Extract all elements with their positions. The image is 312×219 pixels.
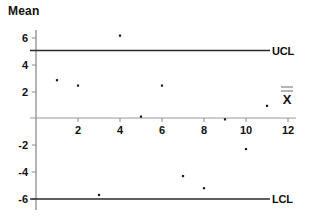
x-tick-label-10: 10 — [240, 124, 252, 136]
control-chart: Mean 6 4 2 -2 -4 -6 — [0, 0, 312, 219]
data-point — [203, 187, 205, 189]
data-points — [56, 35, 268, 197]
lcl-label: LCL — [272, 193, 293, 205]
data-point — [56, 79, 58, 81]
y-tick-label-neg2: -2 — [18, 139, 28, 151]
center-label-text: X — [283, 92, 292, 107]
center-line-label: X — [281, 87, 293, 107]
data-point — [245, 148, 247, 150]
chart-plot-area: 6 4 2 -2 -4 -6 2 4 6 8 10 12 UCL LCL — [0, 0, 312, 219]
x-tick-label-6: 6 — [159, 124, 165, 136]
y-tick-label-neg4: -4 — [18, 166, 29, 178]
ucl-label: UCL — [272, 45, 294, 57]
x-tick-label-12: 12 — [282, 124, 294, 136]
data-point — [266, 105, 268, 107]
data-point — [161, 85, 163, 87]
x-axis-ticks — [78, 118, 288, 122]
y-tick-label-6: 6 — [22, 32, 28, 44]
x-tick-label-2: 2 — [75, 124, 81, 136]
data-point — [182, 175, 184, 177]
x-tick-label-4: 4 — [117, 124, 124, 136]
y-tick-label-neg6: -6 — [18, 193, 28, 205]
data-point — [224, 118, 226, 120]
data-point — [77, 85, 79, 87]
y-tick-label-4: 4 — [22, 59, 29, 71]
x-tick-label-8: 8 — [201, 124, 207, 136]
data-point — [98, 194, 100, 196]
data-point — [119, 35, 121, 37]
y-tick-label-2: 2 — [22, 86, 28, 98]
data-point — [140, 116, 142, 118]
